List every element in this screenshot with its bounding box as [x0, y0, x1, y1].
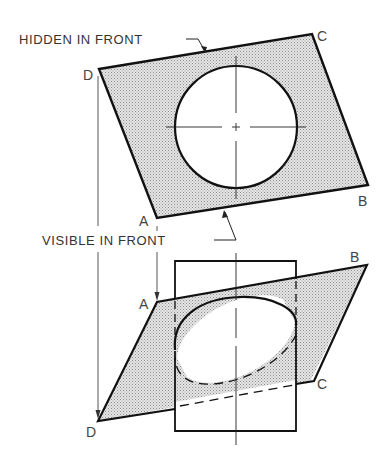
front-corner-d: D	[86, 424, 96, 440]
orthographic-drawing: D C B A HIDDEN IN FRONT VISIBLE IN FRONT	[0, 0, 391, 470]
projection-arrow-a	[155, 292, 160, 301]
top-corner-c: C	[317, 28, 327, 44]
front-corner-a: A	[139, 296, 149, 312]
front-corner-b: B	[350, 249, 359, 265]
top-view: D C B A	[83, 28, 368, 229]
front-view: A B C D	[86, 249, 367, 445]
hidden-in-front-label: HIDDEN IN FRONT	[19, 32, 143, 47]
hidden-annotation: HIDDEN IN FRONT	[19, 32, 207, 53]
hidden-leader-line	[186, 39, 205, 51]
top-corner-b: B	[358, 193, 367, 209]
visible-in-front-label: VISIBLE IN FRONT	[42, 233, 166, 248]
front-corner-c: C	[317, 376, 327, 392]
top-corner-d: D	[83, 67, 93, 83]
top-corner-a: A	[139, 213, 149, 229]
